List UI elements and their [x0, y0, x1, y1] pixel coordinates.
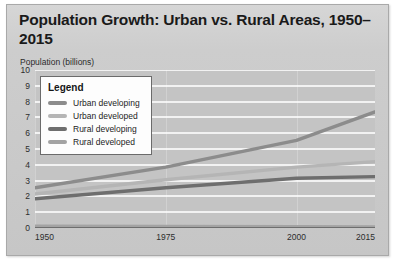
legend-swatch-icon — [48, 127, 67, 131]
y-tick-1: 1 — [25, 207, 30, 217]
legend-swatch-icon — [48, 114, 67, 118]
y-axis-title: Population (billions) — [20, 57, 94, 67]
x-tick-1950: 1950 — [35, 232, 54, 242]
legend-item-label: Urban developed — [73, 111, 138, 121]
chart-card: Population Growth: Urban vs. Rural Areas… — [6, 4, 389, 256]
legend-item-urban-developed: Urban developed — [48, 109, 144, 122]
legend-box: Legend Urban developingUrban developedRu… — [40, 76, 152, 155]
x-axis-baseline — [35, 227, 375, 228]
title-block: Population Growth: Urban vs. Rural Areas… — [19, 11, 377, 48]
x-tick-2000: 2000 — [287, 232, 306, 242]
y-tick-10: 10 — [21, 65, 30, 75]
legend-item-label: Urban developing — [73, 98, 140, 108]
x-tick-1975: 1975 — [156, 232, 175, 242]
legend-swatch-icon — [48, 140, 67, 144]
x-tick-2015: 2015 — [356, 232, 375, 242]
legend-item-urban-developing: Urban developing — [48, 96, 144, 109]
legend-swatch-icon — [48, 101, 67, 105]
legend-item-rural-developed: Rural developed — [48, 135, 144, 148]
y-tick-5: 5 — [25, 144, 30, 154]
y-tick-0: 0 — [25, 223, 30, 233]
chart-title: Population Growth: Urban vs. Rural Areas… — [19, 11, 377, 48]
y-tick-4: 4 — [25, 160, 30, 170]
y-tick-8: 8 — [25, 97, 30, 107]
legend-title: Legend — [48, 82, 144, 93]
legend-item-rural-developing: Rural developing — [48, 122, 144, 135]
legend-item-label: Rural developing — [73, 124, 137, 134]
y-tick-7: 7 — [25, 112, 30, 122]
y-tick-6: 6 — [25, 128, 30, 138]
y-tick-3: 3 — [25, 176, 30, 186]
legend-items-group: Urban developingUrban developedRural dev… — [48, 96, 144, 148]
y-tick-2: 2 — [25, 191, 30, 201]
legend-item-label: Rural developed — [73, 137, 135, 147]
y-tick-9: 9 — [25, 81, 30, 91]
